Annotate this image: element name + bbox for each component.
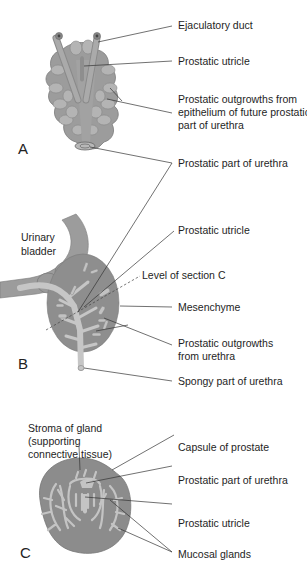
label-spongy-urethra: Spongy part of urethra	[178, 375, 282, 388]
label-prostatic-urethra-a: Prostatic part of urethra	[178, 157, 288, 170]
label-urinary-bladder-line2: bladder	[21, 245, 56, 258]
label-stroma-line2: (supporting	[28, 435, 81, 448]
label-prostatic-utricle-c: Prostatic utricle	[178, 517, 250, 530]
label-outgrowths-b-line1: Prostatic outgrowths	[178, 337, 273, 350]
panel-label-a: A	[18, 140, 28, 157]
label-prostatic-utricle-a: Prostatic utricle	[178, 55, 250, 68]
panel-label-c: C	[20, 544, 31, 561]
panel-a-illustration	[46, 33, 118, 151]
label-urinary-bladder-line1: Urinary	[21, 231, 55, 244]
label-stroma-line3: connective tissue)	[28, 448, 112, 461]
label-level-of-section-c: Level of section C	[142, 269, 225, 282]
label-outgrowths-a-line1: Prostatic outgrowths from	[178, 93, 297, 106]
label-prostatic-urethra-c: Prostatic part of urethra	[178, 474, 288, 487]
label-outgrowths-b-line2: from urethra	[178, 350, 235, 363]
label-ejaculatory-duct: Ejaculatory duct	[178, 19, 253, 32]
label-outgrowths-a-line3: part of urethra	[178, 119, 244, 132]
label-prostatic-utricle-b: Prostatic utricle	[178, 224, 250, 237]
label-mesenchyme: Mesenchyme	[178, 301, 240, 314]
label-mucosal-glands: Mucosal glands	[178, 548, 251, 561]
label-stroma-line1: Stroma of gland	[28, 422, 102, 435]
label-outgrowths-a-line2: epithelium of future prostatic	[178, 106, 307, 119]
panel-label-b: B	[18, 355, 28, 372]
label-capsule-of-prostate: Capsule of prostate	[178, 441, 269, 454]
